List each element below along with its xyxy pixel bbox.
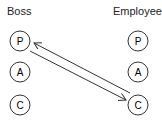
employee-node-c: C — [128, 95, 148, 115]
svg-text:P: P — [135, 36, 142, 47]
boss-node-p: P — [10, 31, 30, 51]
arrow-employee-c-to-boss-p — [34, 43, 130, 93]
boss-node-a: A — [10, 62, 30, 82]
arrow-boss-p-to-employee-c — [30, 51, 126, 100]
boss-node-c: C — [10, 95, 30, 115]
svg-text:P: P — [17, 36, 24, 47]
svg-text:C: C — [16, 100, 23, 111]
employee-node-a: A — [128, 62, 148, 82]
svg-text:A: A — [17, 67, 24, 78]
transaction-diagram: P A C P A C — [0, 0, 162, 122]
svg-text:A: A — [135, 67, 142, 78]
svg-text:C: C — [134, 100, 141, 111]
employee-node-p: P — [128, 31, 148, 51]
